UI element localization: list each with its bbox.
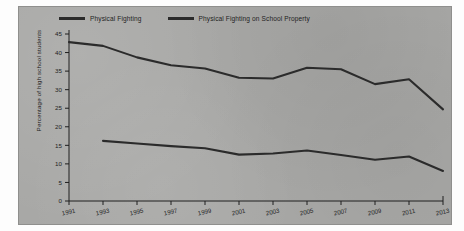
- chart-legend: Physical Fighting Physical Fighting on S…: [59, 15, 310, 22]
- y-tick-label: 25: [55, 104, 62, 111]
- y-tick-label: 0: [59, 197, 63, 204]
- legend-line-swatch-icon: [168, 17, 194, 20]
- x-tick-label: 2003: [265, 207, 280, 217]
- series-line-1: [69, 42, 443, 109]
- y-tick-label: 30: [55, 86, 62, 93]
- x-tick-label: 2001: [231, 207, 246, 217]
- series-line-2: [103, 141, 443, 171]
- line-chart-svg: 0510152025303540451991199319951997199920…: [19, 7, 452, 225]
- legend-label: Physical Fighting on School Property: [199, 15, 310, 22]
- legend-entry-physical-fighting-school-property: Physical Fighting on School Property: [168, 15, 310, 22]
- x-tick-label: 2007: [333, 207, 348, 217]
- y-tick-label: 40: [55, 49, 62, 56]
- y-tick-label: 10: [55, 160, 62, 167]
- y-tick-label: 5: [59, 179, 63, 186]
- legend-line-swatch-icon: [59, 17, 85, 20]
- x-tick-label: 2013: [435, 207, 450, 217]
- x-tick-label: 2005: [299, 207, 314, 217]
- x-tick-label: 1997: [163, 207, 178, 217]
- legend-entry-physical-fighting: Physical Fighting: [59, 15, 142, 22]
- y-tick-label: 20: [55, 123, 62, 130]
- x-tick-label: 1999: [197, 207, 212, 217]
- legend-label: Physical Fighting: [90, 15, 142, 22]
- x-tick-label: 2009: [367, 207, 382, 217]
- x-tick-label: 2011: [401, 207, 416, 217]
- chart-figure-panel: Physical Fighting Physical Fighting on S…: [18, 6, 452, 225]
- x-tick-label: 1991: [61, 207, 76, 217]
- y-tick-label: 35: [55, 67, 62, 74]
- y-tick-label: 45: [55, 30, 62, 37]
- x-tick-label: 1993: [95, 207, 110, 217]
- y-tick-label: 15: [55, 142, 62, 149]
- scan-page: Physical Fighting Physical Fighting on S…: [0, 0, 464, 231]
- plot-area: Percentage of high school students 05101…: [19, 7, 452, 225]
- x-tick-label: 1995: [129, 207, 144, 217]
